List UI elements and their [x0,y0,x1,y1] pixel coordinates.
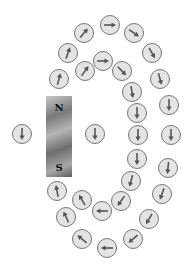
compass-icon [93,202,112,221]
compass-icon [151,70,170,89]
compass-icon [122,172,141,191]
compass-icon [124,230,143,249]
compass-icon [13,125,32,144]
compass-icon [160,96,179,115]
compass-icon [57,208,76,227]
compass-layer [0,0,186,266]
compass-icon [113,62,132,81]
compass-icon [129,126,148,145]
magnetic-field-diagram: N S [0,0,186,266]
compass-icon [73,230,92,249]
compass-icon [140,210,159,229]
compass-icon [143,44,162,63]
compass-icon [128,104,147,123]
compass-icon [98,239,117,258]
compass-icon [94,52,113,71]
compass-icon [128,150,147,169]
compass-icon [86,125,105,144]
compass-icon [159,159,178,178]
compass-icon [112,192,131,211]
compass-icon [50,70,69,89]
compass-icon [153,185,172,204]
compass-icon [73,191,92,210]
compass-icon [59,44,78,63]
compass-icon [48,182,67,201]
compass-icon [123,83,142,102]
compass-icon [76,62,95,81]
compass-icon [101,16,120,35]
compass-icon [162,126,181,145]
compass-icon [75,24,94,43]
compass-icon [125,24,144,43]
